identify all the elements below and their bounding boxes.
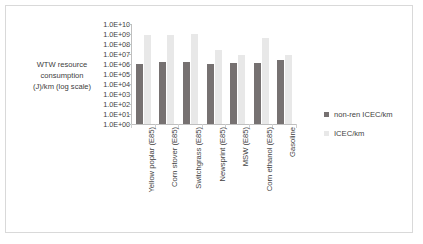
y-tick-mark	[128, 54, 131, 55]
bar-group	[229, 24, 245, 124]
bar[interactable]	[262, 38, 269, 124]
bar[interactable]	[167, 35, 174, 124]
y-tick-label: 1.0E+09	[103, 30, 130, 39]
bar[interactable]	[136, 64, 143, 124]
y-tick-label: 1.0E+08	[103, 40, 130, 49]
y-tick-label: 1.0E+04	[103, 80, 130, 89]
y-axis-line	[131, 24, 132, 124]
bar-group	[182, 24, 198, 124]
y-tick-label: 1.0E+06	[103, 60, 130, 69]
y-tick-mark	[128, 94, 131, 95]
bar[interactable]	[254, 63, 261, 124]
y-tick-label: 1.0E+10	[103, 20, 130, 29]
bar[interactable]	[207, 64, 214, 124]
x-axis-category-labels: Yellow poplar (E85)Corn stover (E85)Swit…	[131, 127, 306, 237]
y-tick-mark	[128, 104, 131, 105]
y-tick-mark	[128, 84, 131, 85]
chart-legend: non-ren ICEC/km ICEC/km	[324, 110, 419, 148]
bar[interactable]	[191, 34, 198, 124]
legend-swatch-icon-non-ren-icec	[324, 112, 329, 117]
chart-figure: WTW resource consumption (J)/km (log sca…	[5, 5, 413, 233]
bar[interactable]	[159, 62, 166, 124]
plot-area	[131, 24, 296, 124]
bar-group	[253, 24, 269, 124]
legend-label-non-ren-icec: non-ren ICEC/km	[334, 110, 393, 119]
bar[interactable]	[285, 55, 292, 124]
bar-group	[276, 24, 292, 124]
bar[interactable]	[277, 60, 284, 124]
y-tick-label: 1.0E+03	[103, 90, 130, 99]
y-tick-mark	[128, 74, 131, 75]
bar-group	[135, 24, 151, 124]
bar[interactable]	[238, 55, 245, 124]
y-tick-mark	[128, 34, 131, 35]
y-tick-label: 1.0E+01	[103, 110, 130, 119]
legend-item-non-ren-icec: non-ren ICEC/km	[324, 110, 419, 119]
bar[interactable]	[144, 35, 151, 124]
x-category-label: Corn stover (E85)	[170, 127, 179, 187]
y-tick-mark	[128, 114, 131, 115]
x-axis-line	[131, 124, 296, 125]
legend-label-icec: ICEC/km	[334, 129, 364, 138]
x-category-label: Switchgrass (E85)	[194, 127, 203, 189]
bar-group	[158, 24, 174, 124]
bar[interactable]	[183, 62, 190, 124]
y-axis-tick-labels: 1.0E+101.0E+091.0E+081.0E+071.0E+061.0E+…	[94, 24, 130, 124]
y-tick-mark	[128, 44, 131, 45]
y-tick-label: 1.0E+02	[103, 100, 130, 109]
legend-item-icec: ICEC/km	[324, 129, 419, 138]
x-category-label: Gasoline	[288, 127, 297, 157]
bar-group	[206, 24, 222, 124]
x-category-label: Yellow poplar (E85)	[147, 127, 156, 193]
y-tick-label: 1.0E+07	[103, 50, 130, 59]
x-category-label: Newsprint (E85)	[218, 127, 227, 181]
bar[interactable]	[230, 63, 237, 124]
y-tick-label: 1.0E+00	[103, 120, 130, 129]
bar[interactable]	[215, 50, 222, 124]
x-category-label: Corn ethanol (E85)	[265, 127, 274, 191]
y-tick-mark	[128, 24, 131, 25]
y-tick-mark	[128, 64, 131, 65]
x-category-label: MSW (E85)	[241, 127, 250, 166]
y-tick-label: 1.0E+05	[103, 70, 130, 79]
legend-swatch-icon-icec	[324, 131, 329, 136]
